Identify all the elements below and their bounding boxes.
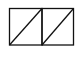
diagram-canvas [0,0,82,57]
diagonal-line-2 [42,9,74,46]
diagonal-line-1 [10,9,43,46]
cells-group [10,9,74,46]
